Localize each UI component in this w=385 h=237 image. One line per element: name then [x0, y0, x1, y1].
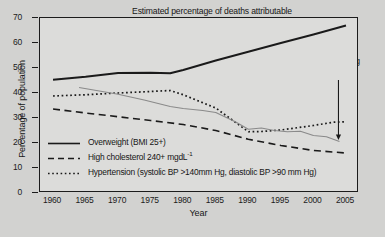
y-tick-mark-60 — [32, 42, 38, 43]
legend-key-dashed — [48, 157, 80, 160]
y-tick-label-70: 70 — [13, 12, 22, 22]
series-line-overweight-bmi-25 — [53, 26, 346, 80]
y-tick-label-10: 10 — [13, 162, 22, 172]
legend-label-cholesterol-superscript: -1 — [187, 150, 192, 157]
x-tick-label-1965: 1965 — [76, 195, 94, 205]
y-axis-label: Percentage of population — [17, 39, 27, 179]
y-tick-mark-20 — [32, 142, 38, 143]
x-tick-label-2005: 2005 — [336, 195, 354, 205]
y-tick-mark-0 — [32, 192, 38, 193]
y-tick-mark-70 — [32, 17, 38, 18]
legend-label-hypertension: Hypertension (systolic BP >140mm Hg, dia… — [88, 166, 316, 179]
figure-page: Estimated percentage of deaths attributa… — [0, 0, 385, 237]
x-tick-label-1960: 1960 — [43, 195, 61, 205]
legend-key-dotted — [48, 172, 80, 175]
y-tick-mark-30 — [32, 117, 38, 118]
x-tick-label-1990: 1990 — [238, 195, 256, 205]
y-tick-mark-50 — [32, 67, 38, 68]
legend-item-hypertension: Hypertension (systolic BP >140mm Hg, dia… — [48, 166, 348, 181]
y-tick-label-30: 30 — [13, 112, 22, 122]
legend-label-overweight: Overweight (BMI 25+) — [88, 136, 166, 149]
series-line-percentage-smoking — [79, 88, 339, 142]
y-tick-label-50: 50 — [13, 62, 22, 72]
chart-title-line-1: Estimated percentage of deaths attributa… — [96, 6, 328, 17]
x-tick-label-1970: 1970 — [108, 195, 126, 205]
series-line-hypertension-systolic-bp-140mm-hg-diastolic-bp-90-mm-hg — [53, 91, 346, 132]
chart-figure: Estimated percentage of deaths attributa… — [0, 0, 385, 237]
y-tick-mark-10 — [32, 167, 38, 168]
legend-label-cholesterol-text: High cholesterol 240+ mgdL — [88, 152, 187, 162]
legend-key-solid — [48, 142, 80, 145]
y-tick-mark-40 — [32, 92, 38, 93]
x-tick-label-1980: 1980 — [173, 195, 191, 205]
chart-legend: Overweight (BMI 25+) High cholesterol 24… — [48, 136, 348, 181]
y-tick-label-20: 20 — [13, 137, 22, 147]
x-tick-label-1995: 1995 — [271, 195, 289, 205]
legend-item-overweight: Overweight (BMI 25+) — [48, 136, 348, 151]
x-tick-label-1975: 1975 — [141, 195, 159, 205]
x-tick-label-1985: 1985 — [206, 195, 224, 205]
y-tick-label-0: 0 — [17, 187, 22, 197]
x-axis-label: Year — [39, 208, 358, 218]
legend-item-cholesterol: High cholesterol 240+ mgdL-1 — [48, 151, 348, 166]
y-tick-label-60: 60 — [13, 37, 22, 47]
y-tick-label-40: 40 — [13, 87, 22, 97]
legend-label-cholesterol: High cholesterol 240+ mgdL-1 — [88, 151, 192, 164]
x-tick-label-2000: 2000 — [303, 195, 321, 205]
